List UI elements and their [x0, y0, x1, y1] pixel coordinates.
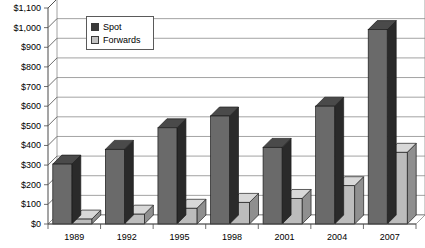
- bar-spot-2001: [263, 138, 291, 224]
- x-axis-tick-1995: 1995: [153, 232, 206, 242]
- legend-label: Spot: [103, 22, 122, 32]
- bar-spot-2004: [316, 97, 344, 224]
- legend-swatch-forwards-icon: [91, 36, 99, 44]
- bar-spot-1989: [53, 155, 81, 224]
- bar-spot-1992: [105, 140, 133, 224]
- x-axis-tick-1992: 1992: [101, 232, 154, 242]
- plot-area: [0, 0, 425, 248]
- x-axis-tick-2001: 2001: [258, 232, 311, 242]
- legend-swatch-spot-icon: [91, 23, 99, 31]
- bar-spot-1995: [158, 119, 186, 224]
- x-axis-tick-1989: 1989: [48, 232, 101, 242]
- x-axis-tick-2004: 2004: [311, 232, 364, 242]
- legend-item-spot: Spot: [91, 20, 148, 33]
- bar-spot-1998: [211, 107, 239, 224]
- x-axis-tick-1998: 1998: [206, 232, 259, 242]
- legend-label: Forwards: [103, 35, 141, 45]
- legend-item-forwards: Forwards: [91, 33, 148, 46]
- bar-chart: $0$100$200$300$400$500$600$700$800$900$1…: [0, 0, 425, 248]
- x-axis-tick-2007: 2007: [363, 232, 416, 242]
- bar-spot-2007: [368, 21, 396, 224]
- chart-legend: SpotForwards: [86, 16, 154, 50]
